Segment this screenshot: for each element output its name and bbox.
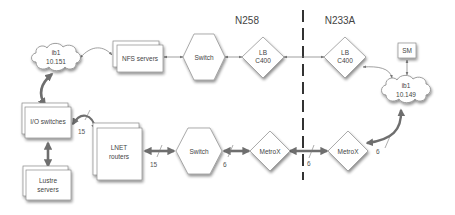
link-count-io-lnet: 15 bbox=[78, 128, 86, 135]
node-ib1-10-149 bbox=[382, 75, 431, 102]
node-lb-right-line2: C400 bbox=[337, 57, 353, 64]
node-lnet-routers bbox=[93, 123, 142, 180]
node-nfs-servers-label: NFS servers bbox=[122, 55, 159, 62]
cloud-icon bbox=[382, 75, 431, 102]
node-lb-right-line1: LB bbox=[341, 49, 349, 56]
node-switch-top-label: Switch bbox=[194, 54, 214, 61]
region-label-n258: N258 bbox=[235, 15, 259, 26]
node-ib1-left-address: 10.151 bbox=[46, 58, 66, 65]
link-count-metrox-metrox: 6 bbox=[307, 160, 311, 167]
node-sm-label: SM bbox=[402, 47, 412, 54]
node-lustre-line2: servers bbox=[37, 186, 59, 193]
node-lb-left-line2: C400 bbox=[255, 57, 271, 64]
link-count-metrox-ib1: 6 bbox=[376, 148, 380, 155]
node-metrox-right-label: MetroX bbox=[338, 148, 360, 155]
node-io-switches-label: I/O switches bbox=[30, 118, 66, 125]
node-switch-bottom-label: Switch bbox=[189, 148, 209, 155]
region-label-n233a: N233A bbox=[325, 15, 356, 26]
node-ib1-left-name: ib1 bbox=[52, 49, 61, 56]
node-lustre-line1: Lustre bbox=[39, 177, 57, 184]
node-lnet-line1: LNET bbox=[111, 144, 128, 151]
network-diagram: N258 N233A 15 15 6 6 6 ib1 10.151 NFS s bbox=[0, 0, 455, 215]
link-count-switch-metrox: 6 bbox=[223, 161, 227, 168]
node-lb-left-line1: LB bbox=[259, 49, 267, 56]
node-lnet-line2: routers bbox=[109, 153, 130, 160]
node-ib1-right-name: ib1 bbox=[402, 82, 411, 89]
link-ib1-io bbox=[41, 74, 52, 105]
node-metrox-left-label: MetroX bbox=[260, 148, 282, 155]
link-lb-ib1 bbox=[363, 67, 392, 78]
link-metrox-ib1 bbox=[367, 110, 401, 143]
node-ib1-right-address: 10.149 bbox=[396, 91, 416, 98]
link-ib1-nfs bbox=[80, 48, 112, 58]
link-count-lnet-switch: 15 bbox=[150, 161, 158, 168]
